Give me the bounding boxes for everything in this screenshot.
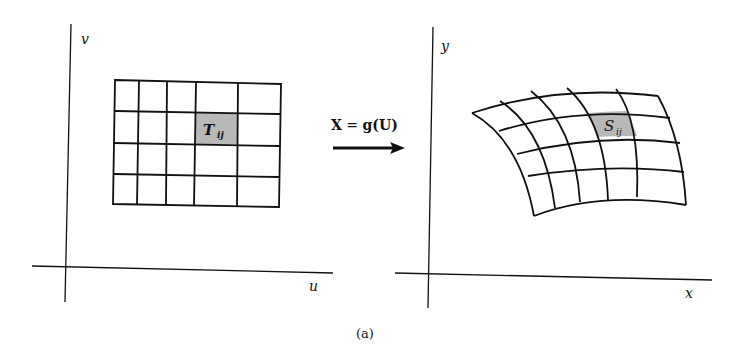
right-panel: y x S ij — [395, 27, 712, 308]
figure-caption: (a) — [356, 326, 374, 341]
transformation-diagram: v u T ij X = g(U) — [0, 0, 731, 364]
equation-rhs: g(U) — [363, 117, 398, 133]
v-axis-label: v — [81, 31, 89, 47]
x-axis — [395, 273, 712, 280]
y-axis — [428, 27, 433, 308]
cell-subscript-S: ij — [616, 127, 622, 137]
mapping-equation: X = g(U) — [331, 117, 398, 133]
cell-label-S: S — [604, 117, 614, 135]
equation-eq: = — [342, 117, 363, 133]
cell-label-T: T — [203, 121, 216, 139]
y-axis-label: y — [440, 38, 450, 54]
left-panel: v u T ij — [32, 24, 333, 302]
x-axis-label: x — [685, 285, 693, 301]
equation-lhs: X — [331, 117, 342, 133]
v-axis — [65, 24, 71, 302]
mapping-arrow-group: X = g(U) — [331, 117, 405, 154]
u-axis — [32, 266, 333, 273]
cell-subscript-T: ij — [217, 130, 224, 140]
xy-grid — [472, 88, 686, 216]
u-axis-label: u — [309, 278, 318, 294]
